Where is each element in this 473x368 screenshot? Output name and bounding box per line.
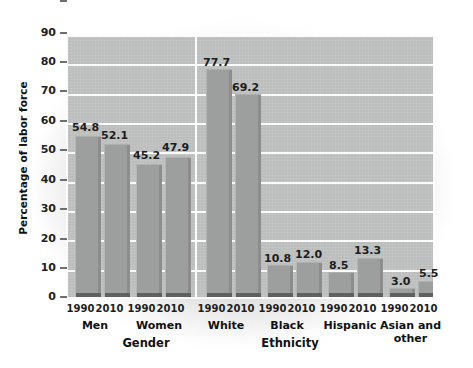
bar-value-women-1990: 45.2 (133, 150, 160, 161)
y-tick-mark-70 (60, 90, 67, 92)
y-tick-label-40: 40 (10, 174, 56, 185)
bar-value-hispanic-1990: 8.5 (329, 260, 349, 271)
y-tick-label-70: 70 (10, 85, 56, 96)
gridline-80 (68, 64, 433, 66)
bar-black-2010 (296, 262, 322, 297)
group-label-women: Women (136, 320, 176, 332)
y-tick-mark-60 (60, 120, 67, 122)
plot-area (68, 33, 435, 297)
bar-white-1990 (206, 69, 232, 297)
bar-chart-figure: Percentage of labor force 90 80 70 60 50… (0, 0, 473, 368)
bar-value-hispanic-2010: 13.3 (354, 245, 381, 256)
y-tick-label-90: 90 (10, 27, 56, 38)
bar-hispanic-1990 (328, 272, 354, 297)
group-label-asian-line2: other (378, 333, 443, 345)
y-tick-mark-90 (60, 32, 67, 34)
bar-asian-2010 (418, 281, 435, 297)
x-axis-line (66, 297, 437, 299)
y-tick-label-60: 60 (10, 115, 56, 126)
y-tick-mark-50 (60, 149, 67, 151)
bar-black-1990 (267, 265, 293, 297)
bar-value-men-2010: 52.1 (101, 130, 128, 141)
group-label-hispanic: Hispanic (323, 320, 377, 332)
bar-value-women-2010: 47.9 (162, 142, 189, 153)
bar-value-black-1990: 10.8 (264, 253, 291, 264)
bar-men-1990 (75, 136, 101, 297)
gridline-90 (68, 35, 433, 37)
bar-value-black-2010: 12.0 (295, 249, 322, 260)
bar-women-1990 (136, 164, 162, 297)
y-axis-title: Percentage of labor force (17, 73, 29, 243)
group-label-asian: Asian and (378, 320, 443, 332)
y-tick-mark-80 (60, 61, 67, 63)
bar-white-2010 (235, 94, 261, 297)
y-tick-mark-30 (60, 208, 67, 210)
y-tick-label-0: 0 (10, 291, 56, 302)
y-tick-mark-20 (60, 238, 67, 240)
group-label-black: Black (267, 320, 307, 332)
section-label-ethnicity: Ethnicity (250, 337, 330, 350)
bar-value-asian-2010: 5.5 (419, 268, 439, 279)
y-tick-label-10: 10 (10, 262, 56, 273)
y-tick-label-20: 20 (10, 233, 56, 244)
x-tick-asian-2010: 2010 (404, 303, 443, 314)
bar-value-white-1990: 77.7 (203, 57, 230, 68)
bar-asian-1990 (389, 288, 415, 297)
group-label-men: Men (75, 320, 115, 332)
group-label-white: White (206, 320, 246, 332)
y-tick-mark-10 (60, 267, 67, 269)
y-tick-label-80: 80 (10, 56, 56, 67)
bar-women-2010 (165, 157, 191, 298)
y-tick-mark-0 (60, 296, 67, 298)
section-label-gender: Gender (106, 337, 186, 350)
y-tick-label-50: 50 (10, 144, 56, 155)
bar-hispanic-2010 (357, 258, 383, 297)
section-divider (195, 35, 197, 297)
bar-value-white-2010: 69.2 (232, 82, 259, 93)
bar-value-men-1990: 54.8 (72, 122, 99, 133)
y-tick-mark-40 (60, 179, 67, 181)
bar-value-asian-1990: 3.0 (391, 276, 411, 287)
x-tick-women-2010: 2010 (151, 303, 190, 314)
bar-men-2010 (104, 144, 130, 297)
y-tick-label-30: 30 (10, 203, 56, 214)
